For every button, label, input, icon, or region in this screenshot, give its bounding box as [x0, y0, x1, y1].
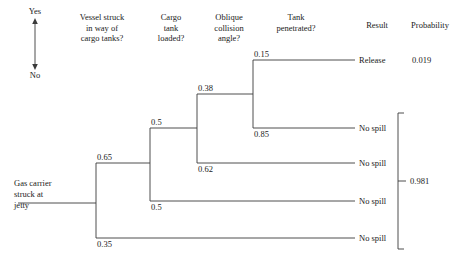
header-result: Result [355, 20, 399, 31]
outcome-result-4: No spill [359, 196, 386, 206]
header-vessel-struck: Vessel struck in way of cargo tanks? [64, 12, 140, 44]
branch-probability-oblique-yes: 0.38 [198, 83, 213, 93]
branch-probability-penetrated-yes: 0.15 [254, 49, 269, 59]
header-oblique-collision-angle: Oblique collision angle? [200, 12, 258, 44]
legend-yes-label: Yes [23, 6, 47, 16]
header-cargo-tank-loaded: Cargo tank loaded? [146, 12, 196, 44]
outcome-probability-1: 0.019 [412, 55, 431, 65]
branch-probability-loaded-no: 0.5 [151, 202, 162, 212]
legend-no-label: No [23, 70, 47, 80]
header-probability: Probability [402, 20, 458, 31]
branch-probability-vessel-no: 0.35 [97, 239, 112, 249]
outcome-result-5: No spill [359, 233, 386, 243]
header-tank-penetrated: Tank penetrated? [263, 12, 329, 33]
legend-arrow-head-up [32, 18, 38, 24]
outcome-result-1: Release [359, 55, 385, 65]
branch-probability-vessel-yes: 0.65 [97, 152, 112, 162]
outcome-result-3: No spill [359, 158, 386, 168]
initiating-event-label: Gas carrier struck at jetty [14, 178, 52, 211]
branch-probability-penetrated-no: 0.85 [254, 129, 269, 139]
branch-probability-loaded-yes: 0.5 [151, 117, 162, 127]
outcome-result-2: No spill [359, 123, 386, 133]
branch-probability-oblique-no: 0.62 [198, 164, 213, 174]
grouped-probability-value: 0.981 [410, 176, 429, 186]
